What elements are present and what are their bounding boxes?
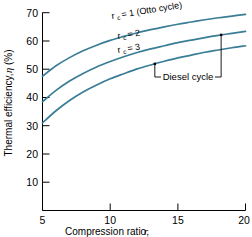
axes-group <box>43 13 246 211</box>
x-tick-label-15: 15 <box>172 214 184 226</box>
curve-label-rc-2-prefix: r <box>117 31 122 41</box>
x-tick-label-5: 5 <box>40 214 46 226</box>
y-tick-label-70: 70 <box>26 7 38 19</box>
diesel-cycle-marker-left <box>154 63 156 65</box>
y-tick-label-40: 40 <box>26 91 38 103</box>
x-tick-label-20: 20 <box>238 214 250 226</box>
x-axis-title: Compression ratio, r <box>65 226 149 237</box>
diesel-cycle-marker-right <box>220 34 222 36</box>
y-axis-title-text: Thermal efficiency, <box>3 74 14 157</box>
thermal-efficiency-chart: 70 60 50 40 30 20 10 5 10 15 20 Compress… <box>0 0 252 237</box>
y-tick-label-10: 10 <box>26 176 38 188</box>
y-tick-label-50: 50 <box>26 63 38 75</box>
x-tick-label-10: 10 <box>104 214 116 226</box>
curve-label-rc-1-suffix: = 1 (Otto cycle) <box>121 0 183 19</box>
curve-label-rc-1: r c = 1 (Otto cycle) <box>111 0 183 22</box>
curve-label-rc-1-prefix: r <box>111 11 116 21</box>
x-tick-labels: 5 10 15 20 <box>40 214 250 226</box>
y-axis-title-unit: (%) <box>3 49 14 65</box>
curve-label-rc-2: r c = 2 <box>117 28 141 43</box>
y-tick-label-20: 20 <box>26 148 38 160</box>
diesel-cycle-label: Diesel cycle <box>163 71 214 82</box>
x-axis-title-text: Compression ratio, <box>65 226 149 237</box>
y-tick-labels: 70 60 50 40 30 20 10 <box>26 7 38 189</box>
chart-svg: 70 60 50 40 30 20 10 5 10 15 20 Compress… <box>0 0 252 237</box>
y-tick-label-60: 60 <box>26 35 38 47</box>
curve-label-rc-3: r c = 3 <box>117 42 141 57</box>
y-axis-title: Thermal efficiency, η (%) <box>3 49 14 156</box>
y-axis-title-symbol: η <box>3 68 14 73</box>
curve-label-rc-3-prefix: r <box>117 45 122 55</box>
y-tick-label-30: 30 <box>26 120 38 132</box>
curve-label-rc-3-suffix: = 3 <box>127 42 141 54</box>
curve-rc-3 <box>43 46 246 123</box>
x-tick-marks <box>43 204 246 211</box>
data-curves-group <box>43 14 246 122</box>
curve-label-rc-2-suffix: = 2 <box>127 28 141 40</box>
